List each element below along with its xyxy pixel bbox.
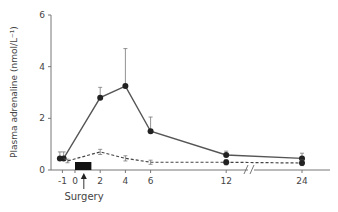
surgery-duration-bar bbox=[75, 162, 91, 170]
y-tick-label: 6 bbox=[39, 10, 45, 20]
solid-data-point bbox=[223, 152, 229, 158]
x-tick-label: 0 bbox=[72, 176, 78, 186]
marks bbox=[57, 49, 305, 189]
solid-data-point bbox=[122, 83, 128, 89]
solid-series-line bbox=[60, 86, 302, 158]
y-tick-label: 0 bbox=[39, 165, 45, 175]
surgery-arrow-head bbox=[81, 173, 87, 179]
solid-data-point bbox=[148, 128, 154, 134]
chart: 0246-102461224 Plasma adrenaline (nmol/L… bbox=[0, 0, 338, 212]
dashed-data-point bbox=[299, 160, 305, 166]
x-tick-label: 4 bbox=[123, 176, 129, 186]
surgery-annotation-label: Surgery bbox=[64, 191, 103, 202]
axes: 0246-102461224 bbox=[39, 10, 330, 186]
dashed-data-point bbox=[223, 159, 229, 165]
y-tick-label: 4 bbox=[39, 62, 45, 72]
x-tick-label: 12 bbox=[220, 176, 231, 186]
axis-break-mark bbox=[250, 165, 254, 174]
y-tick-label: 2 bbox=[39, 113, 45, 123]
x-tick-label: 2 bbox=[97, 176, 103, 186]
x-tick-label: 6 bbox=[148, 176, 154, 186]
y-axis-label: Plasma adrenaline (nmol/L⁻¹) bbox=[9, 26, 19, 158]
solid-data-point bbox=[97, 95, 103, 101]
x-tick-label: -1 bbox=[58, 176, 67, 186]
x-tick-label: 24 bbox=[296, 176, 308, 186]
